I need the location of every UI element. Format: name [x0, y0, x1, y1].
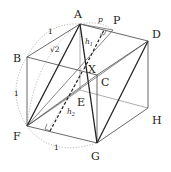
label-p: p — [98, 15, 103, 24]
vertex-label-d: D — [152, 28, 161, 41]
label-h1: h1 — [85, 37, 93, 47]
vertex-label-c: C — [101, 76, 109, 89]
vertex-label-b: B — [13, 52, 21, 65]
label-one-left: 1 — [14, 89, 19, 98]
vertex-label-g: G — [91, 150, 100, 163]
edge-fg — [27, 126, 97, 143]
vertex-label-e: E — [77, 96, 85, 109]
vertex-label-x: X — [88, 63, 96, 76]
vertex-label-p: P — [113, 14, 121, 27]
segment-fd — [27, 41, 148, 126]
label-h2: h2 — [67, 107, 75, 117]
label-one-top: 1 — [48, 27, 53, 36]
segment-dg — [97, 41, 148, 143]
vertex-label-h: H — [152, 114, 162, 127]
label-one-bottom: 1 — [54, 143, 59, 152]
label-sqrt2: √2 — [50, 45, 60, 54]
vertex-label-a: A — [73, 8, 83, 21]
right-angle-mark-h2 — [45, 124, 50, 131]
cube-diagram: A B C D E F G H P X p h1 h2 √2 1 1 1 — [0, 0, 171, 172]
edge-gh — [97, 108, 148, 143]
arc-bottom — [27, 126, 97, 148]
vertex-label-f: F — [13, 130, 21, 143]
